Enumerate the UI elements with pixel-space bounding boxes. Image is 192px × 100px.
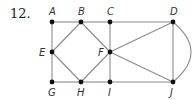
vertex-F [108, 50, 113, 55]
edge-F-D [110, 22, 173, 52]
vertex-label-H: H [77, 87, 85, 98]
vertex-label-E: E [39, 47, 46, 58]
vertex-J [171, 80, 176, 85]
vertex-label-I: I [108, 87, 111, 98]
vertex-G [50, 80, 55, 85]
vertex-E [50, 50, 55, 55]
vertex-I [108, 80, 113, 85]
vertex-label-J: J [168, 87, 173, 98]
vertex-label-G: G [48, 87, 56, 98]
curved-edge-D-J [173, 22, 191, 82]
edge-B-F [81, 22, 110, 52]
edge-E-H [52, 52, 81, 82]
vertex-label-B: B [78, 6, 85, 17]
vertex-B [79, 20, 84, 25]
edge-H-F [81, 52, 110, 82]
edge-E-B [52, 22, 81, 52]
vertex-A [50, 20, 55, 25]
edges-group [52, 22, 173, 82]
graph-diagram: ABCDEFGHIJ [0, 0, 192, 100]
vertex-H [79, 80, 84, 85]
edge-F-J [110, 52, 173, 82]
vertex-label-C: C [107, 6, 114, 17]
vertex-D [171, 20, 176, 25]
vertex-label-A: A [48, 6, 56, 17]
vertex-C [108, 20, 113, 25]
curved-edges-group [173, 22, 191, 82]
vertex-label-D: D [170, 6, 178, 17]
vertex-label-F: F [98, 47, 104, 58]
